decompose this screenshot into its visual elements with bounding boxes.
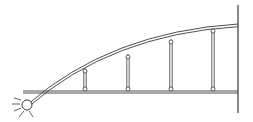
pin-circle	[22, 100, 32, 110]
hanger-top-joint-icon	[83, 69, 87, 73]
arch-inner-line	[28, 27, 238, 108]
hanger-bottom-joint-icon	[211, 87, 215, 91]
pin-support-icon	[12, 98, 33, 117]
hanger-4	[211, 28, 215, 91]
hanger-bottom-joint-icon	[169, 87, 173, 91]
hanger-2	[126, 54, 130, 91]
support-hatch-3	[14, 108, 21, 111]
support-hatch-5	[29, 111, 33, 117]
deck-beam	[23, 91, 238, 93]
support-hatch-1	[14, 98, 21, 100]
support-hatch-4	[19, 111, 24, 117]
hanger-bottom-joint-icon	[126, 87, 130, 91]
hanger-top-joint-icon	[126, 55, 130, 59]
hanger-top-joint-icon	[169, 40, 173, 44]
hanger-top-joint-icon	[211, 29, 215, 33]
arch-diagram	[0, 0, 253, 122]
hangers	[83, 28, 215, 91]
hanger-bottom-joint-icon	[83, 87, 87, 91]
hanger-3	[169, 39, 173, 91]
arch-rib	[27, 24, 238, 107]
hanger-1	[83, 68, 87, 91]
